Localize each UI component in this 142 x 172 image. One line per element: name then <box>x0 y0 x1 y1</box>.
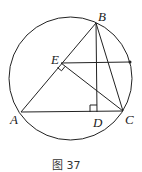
segment-EP <box>61 62 130 63</box>
label-C: C <box>125 112 134 127</box>
label-B: B <box>98 9 106 24</box>
label-A: A <box>9 112 18 127</box>
geometry-figure: B E A D C 图 37 <box>0 0 142 172</box>
segment-EC <box>61 63 123 111</box>
point-on-circle <box>129 61 132 64</box>
segment-BD <box>96 23 97 112</box>
figure-caption: 图 37 <box>52 159 81 172</box>
segment-AB <box>21 23 96 112</box>
label-D: D <box>92 115 103 130</box>
segment-AC <box>21 111 123 112</box>
label-E: E <box>50 52 59 67</box>
segment-BC <box>96 23 123 111</box>
